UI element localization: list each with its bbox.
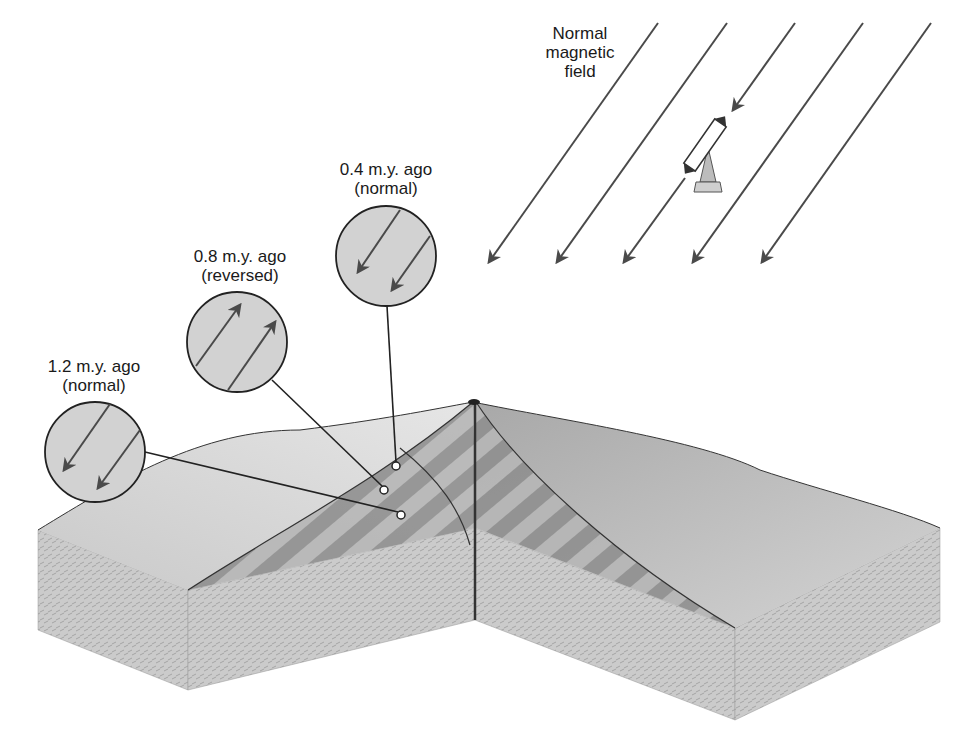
- sample-circle-0.8: [187, 292, 287, 392]
- sample-point-0.8: [380, 486, 388, 494]
- sample-label-0.4: 0.4 m.y. ago (normal): [326, 160, 446, 198]
- sample-point-1.2: [397, 511, 405, 519]
- sample-point-0.4: [392, 462, 400, 470]
- ridge-block: [38, 399, 940, 720]
- sample-label-1.2: 1.2 m.y. ago (normal): [32, 357, 156, 395]
- field-arrow-3b: [624, 178, 685, 262]
- field-arrow-4: [693, 23, 863, 262]
- field-arrow-5: [762, 23, 931, 262]
- compass-icon: [679, 112, 731, 192]
- sample-label-0.8: 0.8 m.y. ago (reversed): [178, 247, 302, 285]
- sample-circle-0.4: [336, 206, 436, 306]
- field-arrow-3a: [733, 23, 795, 110]
- field-label: Normal magnetic field: [530, 24, 630, 81]
- sample-circle-1.2: [45, 402, 145, 502]
